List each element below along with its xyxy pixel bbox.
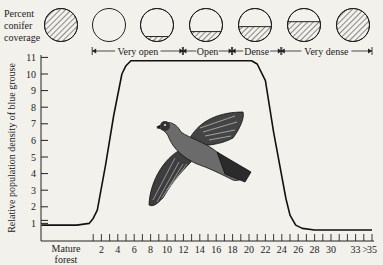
- y-tick-label: 7: [31, 118, 36, 129]
- coverage-circles: [45, 9, 370, 42]
- x-tick-label: 26: [293, 244, 303, 255]
- coverage-circle: [45, 9, 78, 42]
- x-tick-label: 12: [178, 244, 188, 255]
- x-tick-label: 2: [99, 244, 104, 255]
- x-tick-label: 28: [310, 244, 320, 255]
- coverage-fill: [288, 22, 321, 42]
- coverage-circle: [190, 9, 223, 42]
- y-tick-label: 8: [31, 102, 36, 113]
- coverage-circle: [288, 9, 321, 42]
- stage-bracket: Dense: [232, 46, 282, 57]
- stage-bracket-label: Dense: [244, 46, 270, 57]
- coverage-fill: [239, 27, 272, 42]
- coverage-label-line-2: conifer: [4, 20, 33, 31]
- x-tick-label: 8: [148, 244, 153, 255]
- x-label-mature: Mature: [52, 243, 81, 254]
- grouse-tail: [217, 152, 251, 182]
- x-tick-label: 18: [228, 244, 238, 255]
- x-tick-label: 4: [115, 244, 120, 255]
- y-tick-label: 11: [26, 52, 36, 63]
- y-tick-label: 3: [31, 185, 36, 196]
- coverage-circle: [93, 9, 126, 42]
- coverage-circle: [337, 9, 370, 42]
- x-tick-label: 35: [367, 244, 377, 255]
- x-tick-label: 24: [277, 244, 287, 255]
- stage-bracket: Open: [182, 46, 232, 57]
- y-tick-label: 5: [31, 152, 36, 163]
- y-tick-label: 1: [31, 218, 36, 229]
- y-tick-label: 2: [31, 201, 36, 212]
- stage-bracket: Very open: [92, 46, 183, 57]
- x-tick-label: 6: [132, 244, 137, 255]
- stage-bracket-label: Very open: [117, 46, 158, 57]
- stage-bracket-label: Very dense: [304, 46, 349, 57]
- x-tick-label: 22: [260, 244, 270, 255]
- grouse-eye: [164, 124, 166, 126]
- y-tick-label: 10: [26, 69, 36, 80]
- grouse-density-chart: Percent conifer coverage Very openOpenDe…: [0, 0, 383, 265]
- grouse-illustration: [149, 112, 251, 206]
- stage-bracket: Very dense: [281, 46, 372, 57]
- coverage-label-line-1: Percent: [4, 8, 34, 19]
- coverage-label-line-3: coverage: [4, 32, 41, 43]
- x-tick-label: 20: [244, 244, 254, 255]
- coverage-circle-outline: [93, 9, 126, 42]
- stage-brackets: Very openOpenDenseVery dense: [92, 46, 372, 57]
- coverage-label: Percent conifer coverage: [4, 8, 41, 43]
- y-axis-label: Relative population density of blue grou…: [6, 63, 17, 233]
- x-tick-label: 30: [326, 244, 336, 255]
- y-tick-label: 9: [31, 85, 36, 96]
- x-tick-label: 14: [195, 244, 205, 255]
- x-ticks: 2468101214161820222426283033>35: [93, 234, 377, 255]
- y-tick-label: 6: [31, 135, 36, 146]
- x-label-forest: forest: [55, 254, 78, 265]
- y-tick-label: 4: [31, 168, 36, 179]
- x-tick-label: 10: [162, 244, 172, 255]
- y-ticks: 1234567891011: [26, 52, 48, 229]
- coverage-circle: [239, 9, 272, 42]
- coverage-circle: [141, 9, 174, 42]
- x-tick-label: 33: [351, 244, 361, 255]
- stage-bracket-label: Open: [197, 46, 219, 57]
- x-tick-label: 16: [211, 244, 221, 255]
